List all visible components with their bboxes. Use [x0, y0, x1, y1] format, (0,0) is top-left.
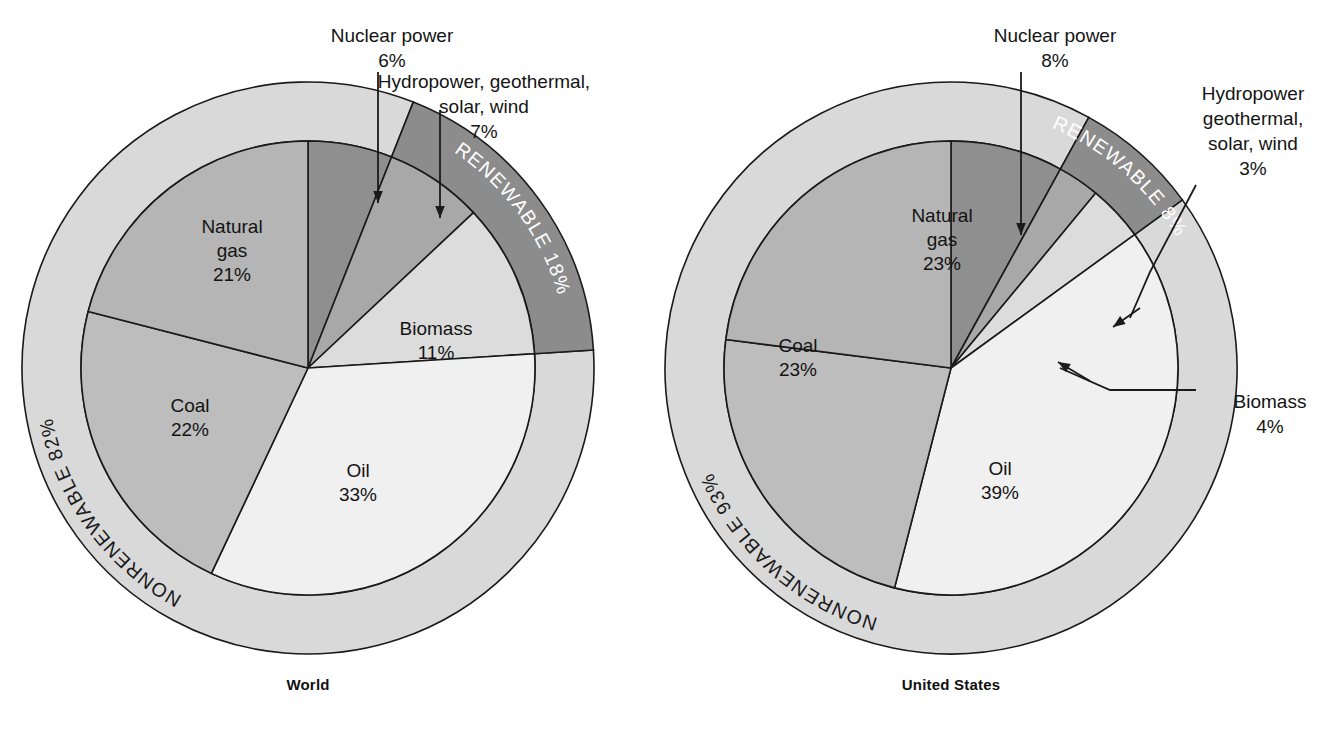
- biomass-callout: Biomass4%: [1234, 391, 1307, 437]
- chart-caption-united-states: United States: [831, 676, 1071, 693]
- hydro-callout: Hydropowergeothermal,solar, wind3%: [1202, 83, 1305, 179]
- chart-caption-world: World: [188, 676, 428, 693]
- nuclear-callout: Nuclear power6%: [331, 25, 454, 71]
- figure-canvas: NONRENEWABLE 82%RENEWABLE 18%Naturalgas2…: [0, 0, 1337, 736]
- pie-chart-united-states: NONRENEWABLE 93%RENEWABLE 8%Naturalgas23…: [665, 25, 1306, 654]
- pie-chart-world: NONRENEWABLE 82%RENEWABLE 18%Naturalgas2…: [22, 25, 594, 654]
- nuclear-callout: Nuclear power8%: [994, 25, 1117, 71]
